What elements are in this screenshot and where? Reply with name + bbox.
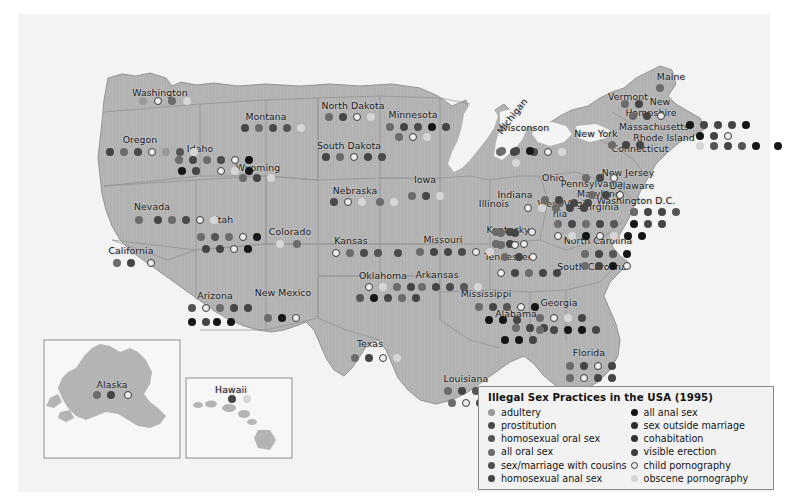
dot-idaho-obscene-pornography [231, 167, 239, 175]
legend-swatch-sex-marriage-with-cousins [488, 462, 495, 469]
dot-missouri-all-oral-sex [416, 248, 424, 256]
dot-georgia-all-oral-sex [536, 314, 544, 322]
dot-georgia-all-oral-sex [536, 326, 544, 334]
dot-north-carolina-all-anal-sex [582, 232, 590, 240]
dot-north-dakota-obscene-pornography [367, 113, 375, 121]
dot-connecticut-homosexual-oral-sex [738, 142, 746, 150]
dot-florida-homosexual-anal-sex [608, 362, 616, 370]
dot-kansas-prostitution [394, 249, 402, 257]
dot-connecticut-all-anal-sex [752, 142, 760, 150]
dot-louisiana-child-pornography [462, 399, 470, 407]
dot-idaho-all-oral-sex [175, 156, 183, 164]
dot-north-carolina-homosexual-oral-sex [610, 220, 618, 228]
dot-georgia-homosexual-anal-sex [592, 326, 600, 334]
dot-utah-all-anal-sex [253, 233, 261, 241]
dot-massachusetts-homosexual-anal-sex [700, 121, 708, 129]
dot-texas-child-pornography [379, 354, 387, 362]
dot-arizona-homosexual-anal-sex [230, 304, 238, 312]
dot-kentucky-all-oral-sex [497, 241, 505, 249]
dot-connecticut-homosexual-anal-sex [724, 142, 732, 150]
dot-new-mexico-all-anal-sex [278, 314, 286, 322]
dot-maryland-homosexual-anal-sex [596, 174, 604, 182]
dot-louisiana-homosexual-anal-sex [458, 387, 466, 395]
dot-arizona-all-oral-sex [216, 304, 224, 312]
dot-arizona-all-anal-sex [188, 318, 196, 326]
legend-swatch-homosexual-anal-sex [488, 475, 495, 482]
legend-item-cohabitation: cohabitation [631, 432, 766, 445]
dot-missouri-obscene-pornography [486, 248, 494, 256]
dot-pennsylvania-child-pornography [616, 191, 624, 199]
dot-alabama-all-oral-sex [512, 324, 520, 332]
dot-minnesota-obscene-pornography [423, 133, 431, 141]
legend-swatch-all-oral-sex [488, 449, 495, 456]
dot-iowa-obscene-pornography [436, 192, 444, 200]
legend-label-homosexual-anal-sex: homosexual anal sex [501, 474, 602, 484]
dot-mississippi-all-anal-sex [499, 316, 507, 324]
legend-item-homosexual-anal-sex: homosexual anal sex [488, 472, 627, 485]
dot-louisiana-all-oral-sex [448, 399, 456, 407]
dot-connecticut-homosexual-oral-sex [710, 142, 718, 150]
dot-georgia-child-pornography [550, 314, 558, 322]
dot-nebraska-all-oral-sex [376, 198, 384, 206]
dot-washington-dc-all-oral-sex [630, 208, 638, 216]
dot-oklahoma-child-pornography [365, 283, 373, 291]
legend-label-sex-outside-marriage: sex outside marriage [644, 421, 745, 431]
dot-michigan-homosexual-anal-sex [512, 147, 520, 155]
dot-tennessee-child-pornography [497, 269, 505, 277]
dot-south-carolina-homosexual-anal-sex [595, 262, 603, 270]
dot-arkansas-obscene-pornography [474, 283, 482, 291]
dot-florida-homosexual-anal-sex [608, 374, 616, 382]
dot-kansas-all-oral-sex [346, 249, 354, 257]
legend-swatch-visible-erection [631, 449, 638, 456]
dot-arizona-child-pornography [202, 304, 210, 312]
dot-south-carolina-all-anal-sex [609, 262, 617, 270]
dot-north-carolina-homosexual-anal-sex [596, 220, 604, 228]
dot-nevada-all-oral-sex [135, 216, 143, 224]
screenshot-root: Washington Oregon Idaho Montana Wyoming … [0, 0, 787, 504]
dot-nebraska-child-pornography [344, 198, 352, 206]
dot-missouri-child-pornography [472, 248, 480, 256]
dot-new-hampshire-homosexual-anal-sex [643, 112, 651, 120]
dot-arizona-homosexual-anal-sex [244, 304, 252, 312]
dot-alaska-child-pornography [124, 391, 132, 399]
dot-massachusetts-homosexual-anal-sex [728, 121, 736, 129]
dot-virginia-homosexual-anal-sex [658, 208, 666, 216]
dot-ohio-homosexual-anal-sex [570, 199, 578, 207]
legend-swatch-sex-outside-marriage [631, 422, 638, 429]
dot-idaho-all-anal-sex [245, 156, 253, 164]
dot-iowa-all-oral-sex [408, 192, 416, 200]
dot-new-york-homosexual-anal-sex [622, 141, 630, 149]
dot-massachusetts-all-anal-sex [742, 121, 750, 129]
dot-oklahoma-obscene-pornography [379, 283, 387, 291]
dot-kentucky-all-oral-sex [497, 229, 505, 237]
dot-mississippi-all-anal-sex [485, 316, 493, 324]
dot-south-carolina-homosexual-anal-sex [595, 250, 603, 258]
dot-nebraska-obscene-pornography [390, 198, 398, 206]
dot-tennessee-homosexual-anal-sex [511, 269, 519, 277]
dot-tennessee-all-oral-sex [525, 269, 533, 277]
dot-texas-homosexual-anal-sex [365, 354, 373, 362]
legend-label-obscene-pornography: obscene pornography [644, 474, 749, 484]
dot-idaho-all-oral-sex [203, 156, 211, 164]
dot-vermont-all-oral-sex [621, 100, 629, 108]
dot-connecticut-obscene-pornography [696, 142, 704, 150]
dot-illinois-child-pornography [520, 240, 528, 248]
dot-mississippi-homosexual-oral-sex [503, 303, 511, 311]
map-legend: Illegal Sex Practices in the USA (1995) … [478, 386, 774, 490]
dot-wisconsin-child-pornography [544, 148, 552, 156]
dot-rhode-island-child-pornography [724, 132, 732, 140]
dot-arizona-all-anal-sex [227, 318, 235, 326]
dot-north-carolina-homosexual-anal-sex [568, 220, 576, 228]
dot-florida-all-oral-sex [566, 374, 574, 382]
dot-south-dakota-prostitution [378, 153, 386, 161]
dot-south-carolina-all-oral-sex [581, 262, 589, 270]
dot-arkansas-all-oral-sex [418, 283, 426, 291]
dot-alabama-homosexual-anal-sex [526, 324, 534, 332]
dot-rhode-island-all-anal-sex [696, 132, 704, 140]
dot-montana-all-oral-sex [255, 124, 263, 132]
dot-indiana-obscene-pornography [538, 204, 546, 212]
dot-kentucky-homosexual-anal-sex [511, 229, 519, 237]
dot-arkansas-homosexual-anal-sex [432, 283, 440, 291]
legend-swatch-cohabitation [631, 435, 638, 442]
dot-indiana-child-pornography [524, 204, 532, 212]
